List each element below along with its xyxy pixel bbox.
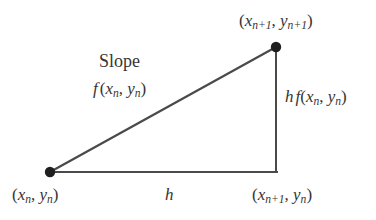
end-point-dot	[271, 42, 281, 52]
h-variable: h	[165, 185, 174, 204]
x-variable: x	[105, 79, 113, 98]
hypotenuse-slope-line	[50, 47, 276, 172]
label-point-projected: (xn+1, yn)	[252, 186, 312, 203]
x-subscript: n+1	[252, 19, 271, 32]
euler-step-diagram: (xn+1, yn+1) Slope f(xn, yn) hf(xn, yn) …	[0, 0, 376, 220]
comma: ,	[319, 87, 328, 106]
close-paren: )	[306, 185, 312, 204]
comma: ,	[285, 185, 294, 204]
close-paren: )	[341, 87, 347, 106]
close-paren: )	[307, 11, 313, 30]
label-step-size: h	[165, 186, 174, 203]
y-variable: y	[280, 11, 288, 30]
label-point-current: (xn, yn)	[12, 186, 59, 203]
f-variable: f	[93, 79, 98, 98]
comma: ,	[119, 79, 128, 98]
x-subscript: n+1	[265, 193, 284, 206]
label-slope-word: Slope	[99, 52, 140, 70]
comma: ,	[272, 11, 281, 30]
y-subscript: n+1	[288, 19, 307, 32]
y-variable: y	[293, 185, 301, 204]
start-point-dot	[45, 167, 55, 177]
y-variable: y	[127, 79, 135, 98]
close-paren: )	[53, 185, 59, 204]
comma: ,	[31, 185, 40, 204]
y-variable: y	[40, 185, 48, 204]
h-variable: h	[285, 87, 294, 106]
label-vertical-rise: hf(xn, yn)	[285, 88, 347, 105]
label-slope-expression: f(xn, yn)	[93, 80, 146, 97]
close-paren: )	[141, 79, 147, 98]
label-point-next: (xn+1, yn+1)	[239, 12, 313, 29]
